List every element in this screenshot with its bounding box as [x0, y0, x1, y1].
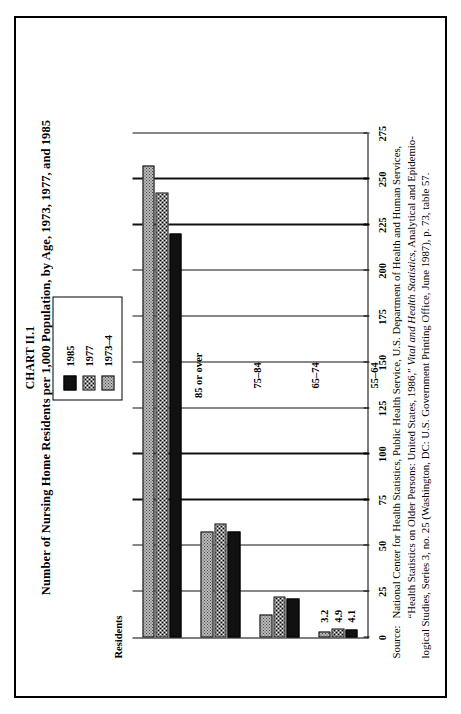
gray-stipple-swatch-icon [101, 375, 114, 390]
axis-tick-label: 175 [376, 308, 387, 324]
chart-number: CHART II.1 [22, 18, 37, 696]
axis-tick-label: 125 [376, 400, 387, 416]
bar-1985-85-or-over [169, 233, 182, 637]
source-line-3: logical Studies, Series 3, no. 25 (Washi… [417, 54, 432, 658]
axis-tick-label: 225 [376, 217, 387, 233]
axis-tick-label: 200 [376, 263, 387, 279]
title-block: CHART II.1 Number of Nursing Home Reside… [22, 18, 54, 696]
source-note: Source: National Center for Health Stati… [388, 54, 432, 658]
bar-1973-4-85-or-over [142, 165, 155, 637]
gridline [132, 177, 367, 178]
plot-area: 025507510012515017520022525027555–6465–7… [132, 133, 368, 638]
axis-tick [363, 452, 369, 453]
data-label-1977: 4.9 [332, 609, 343, 622]
category-label: 55–64 [368, 362, 379, 388]
axis-tick [363, 223, 369, 224]
figure-border: CHART II.1 Number of Nursing Home Reside… [14, 16, 447, 698]
source-journal-title: Vital and Health Statistics [404, 252, 416, 365]
bar-1973-4-55-64 [318, 631, 331, 637]
chart-figure: CHART II.1 Number of Nursing Home Reside… [16, 18, 445, 696]
bar-1973-4-75-84 [200, 531, 213, 637]
axis-tick [363, 269, 369, 270]
category-label: 85 or over [192, 352, 203, 397]
axis-tick-label: 0 [376, 634, 387, 639]
source-line-2: “Health Statistics on Older Persons: Uni… [403, 54, 418, 618]
data-label-1985: 4.1 [346, 609, 357, 622]
bar-1977-65-74 [273, 596, 286, 637]
axis-tick-label: 275 [376, 125, 387, 141]
axis-tick-label: 100 [376, 446, 387, 462]
source-line-2a: “Health Statistics on Older Persons: Uni… [404, 365, 416, 618]
legend-item-1985: 1985 [60, 306, 78, 390]
legend-label: 1977 [83, 345, 94, 366]
bar-1977-55-64 [331, 628, 344, 637]
axis-tick [363, 177, 369, 178]
chart-title: Number of Nursing Home Residents per 1,0… [37, 18, 54, 696]
legend-label: 1973–4 [102, 335, 113, 367]
axis-tick [363, 590, 369, 591]
axis-tick-label: 25 [376, 586, 387, 597]
axis-tick [363, 132, 369, 133]
axis-tick [363, 498, 369, 499]
rotated-figure-wrapper: CHART II.1 Number of Nursing Home Reside… [16, 18, 445, 696]
gridline [132, 132, 367, 133]
solid-black-swatch-icon [63, 375, 76, 390]
fine-dot-swatch-icon [82, 375, 95, 390]
legend-item-1977: 1977 [79, 306, 97, 390]
axis-tick [363, 636, 369, 637]
axis-tick-label: 75 [376, 494, 387, 505]
axis-tick [363, 315, 369, 316]
axis-tick [363, 544, 369, 545]
source-line-1: National Center for Health Statistics, P… [388, 54, 403, 618]
axis-tick-label: 50 [376, 540, 387, 551]
legend-label: 1985 [64, 345, 75, 366]
legend: 1985 1977 1973–4 [52, 296, 122, 400]
data-label-1973-4: 3.2 [319, 609, 330, 622]
bar-1985-55-64 [345, 630, 358, 638]
category-label: 65–74 [309, 362, 320, 388]
bar-1977-75-84 [214, 523, 227, 637]
axis-tick-label: 250 [376, 171, 387, 187]
category-label: 75–84 [251, 362, 262, 388]
source-line-2b: , Analytical and Epidemio- [404, 136, 416, 252]
legend-item-1973-4: 1973–4 [98, 306, 116, 390]
bar-1985-75-84 [227, 531, 240, 637]
bar-1973-4-65-74 [259, 614, 272, 637]
bar-1985-65-74 [286, 598, 299, 637]
source-keyword: Source: [388, 618, 417, 658]
value-axis-label: Residents [112, 615, 123, 658]
figure-page: CHART II.1 Number of Nursing Home Reside… [0, 0, 461, 714]
axis-tick [363, 407, 369, 408]
bar-1977-85-or-over [155, 192, 168, 637]
